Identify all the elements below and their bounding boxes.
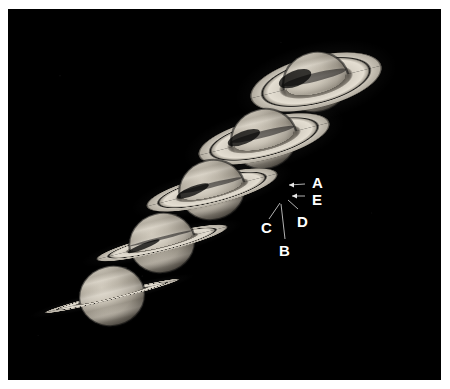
label-d: D bbox=[297, 214, 308, 229]
saturn-ring-tilt-figure: AEDCB bbox=[0, 0, 450, 389]
label-b: B bbox=[279, 243, 290, 258]
label-a: A bbox=[312, 175, 323, 190]
ring-labels-layer: AEDCB bbox=[8, 9, 441, 380]
sky-plate: AEDCB bbox=[8, 9, 441, 380]
label-c: C bbox=[261, 220, 272, 235]
label-e: E bbox=[312, 192, 322, 207]
